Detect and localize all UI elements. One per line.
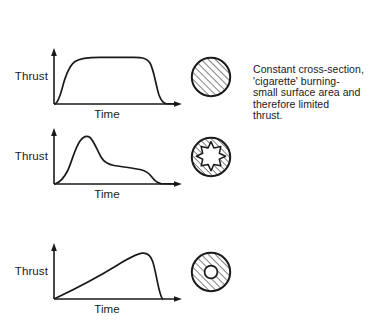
grain-description-caption: Constant cross-section, 'cigarette' burn…: [253, 64, 368, 122]
y-axis: [51, 48, 57, 104]
grain-cross-section-end-burner: [189, 55, 233, 99]
thrust-curve-progressive-regressive-svg: [48, 128, 188, 190]
thrust-chart-neutral: Thrust Time: [12, 48, 188, 120]
star-bore-hatched-circle-icon: [189, 135, 233, 179]
y-axis-label: Thrust: [12, 150, 48, 163]
thrust-curve-neutral-svg: [48, 48, 188, 110]
x-axis-label: Time: [48, 188, 166, 201]
small-bore-hatched-circle-icon: [189, 250, 233, 294]
solid-hatched-circle-icon: [189, 55, 233, 99]
y-axis-label: Thrust: [12, 70, 48, 83]
y-axis: [51, 243, 57, 299]
diagram-row-star-perforation: Thrust Time: [0, 128, 370, 238]
thrust-chart-progressive: Thrust Time: [12, 243, 188, 315]
propellant-grain-thrust-figure: Thrust Time: [0, 0, 370, 335]
thrust-curve-path: [55, 136, 176, 184]
grain-cross-section-tube: [189, 250, 233, 294]
grain-cross-section-star: [189, 135, 233, 179]
y-axis-label: Thrust: [12, 265, 48, 278]
x-axis-label: Time: [48, 108, 166, 121]
x-axis-label: Time: [48, 303, 166, 316]
star-bore-outline: [196, 142, 225, 171]
thrust-curve-progressive-svg: [48, 243, 188, 305]
y-axis: [51, 128, 57, 184]
central-bore-outline: [205, 266, 218, 279]
thrust-curve-path: [55, 57, 176, 104]
thrust-curve-path: [55, 253, 163, 299]
thrust-chart-progressive-regressive: Thrust Time: [12, 128, 188, 200]
diagram-row-internal-burning-tube: Thrust Time: [0, 243, 370, 335]
